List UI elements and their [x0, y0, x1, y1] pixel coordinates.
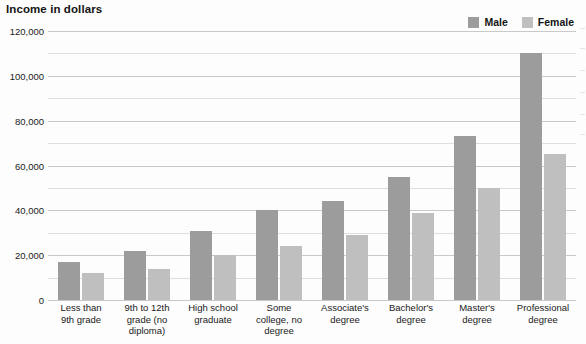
bar-male [322, 201, 344, 300]
x-axis-category-label: High school graduate [180, 302, 246, 325]
y-tick-label: 100,000 [10, 70, 44, 81]
bar-group [388, 31, 434, 300]
bar-male [124, 251, 146, 300]
bar-male [388, 177, 410, 300]
x-axis-category-label: 9th to 12th grade (no diploma) [114, 302, 180, 337]
y-tick-label: 40,000 [15, 205, 44, 216]
x-axis-category-label: Associate's degree [312, 302, 378, 325]
bar-female [148, 269, 170, 300]
y-tick-label: 120,000 [10, 26, 44, 37]
bar-female [478, 188, 500, 300]
x-axis-category-label: Professional degree [510, 302, 576, 325]
bar-group [190, 31, 236, 300]
bar-male [520, 53, 542, 300]
chart-title: Income in dollars [6, 3, 102, 15]
page-edge-marks [579, 22, 585, 142]
x-axis-category-labels: Less than 9th grade9th to 12th grade (no… [48, 302, 576, 344]
chart-legend: Male Female [468, 16, 574, 28]
x-axis-category-label: Some college, no degree [246, 302, 312, 337]
y-axis-tick-labels: 120,000100,00080,00060,00040,00020,0000 [0, 31, 44, 300]
x-axis-category-label: Bachelor's degree [378, 302, 444, 325]
y-tick-label: 80,000 [15, 115, 44, 126]
bar-group [520, 31, 566, 300]
legend-label-male: Male [484, 16, 507, 28]
bar-group [322, 31, 368, 300]
bar-group [256, 31, 302, 300]
bar-female [412, 213, 434, 300]
bar-group [124, 31, 170, 300]
legend-swatch-female [522, 17, 533, 28]
bar-male [256, 210, 278, 300]
legend-entry-male: Male [468, 16, 507, 28]
bar-group [58, 31, 104, 300]
bar-female [346, 235, 368, 300]
bar-female [544, 154, 566, 300]
bar-female [280, 246, 302, 300]
legend-swatch-male [468, 17, 479, 28]
x-axis-category-label: Less than 9th grade [48, 302, 114, 325]
bar-male [454, 136, 476, 300]
bar-group [454, 31, 500, 300]
plot-area [48, 31, 576, 300]
y-tick-label: 20,000 [15, 250, 44, 261]
gridline [48, 300, 576, 301]
legend-entry-female: Female [522, 16, 574, 28]
legend-label-female: Female [538, 16, 574, 28]
x-axis-category-label: Master's degree [444, 302, 510, 325]
bar-male [190, 231, 212, 300]
bar-female [214, 255, 236, 300]
bar-male [58, 262, 80, 300]
y-tick-label: 0 [39, 295, 44, 306]
bar-female [82, 273, 104, 300]
y-tick-label: 60,000 [15, 160, 44, 171]
bars-layer [48, 31, 576, 300]
income-by-education-bar-chart: Income in dollars Male Female 120,000100… [0, 0, 586, 344]
